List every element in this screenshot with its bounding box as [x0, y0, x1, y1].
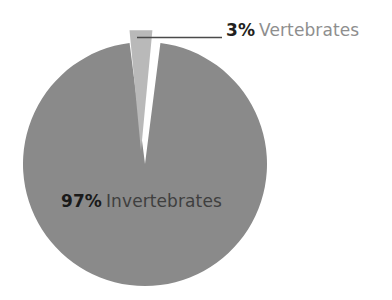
- vertebrates-percent: 3%: [226, 20, 255, 40]
- invertebrates-inline-label: 97%Invertebrates: [61, 193, 222, 210]
- pie-chart-graphic: [0, 0, 392, 300]
- vertebrates-name: Vertebrates: [259, 20, 359, 40]
- invertebrates-percent: 97%: [61, 191, 102, 211]
- vertebrates-callout-label: 3%Vertebrates: [226, 22, 359, 39]
- invertebrates-name: Invertebrates: [106, 191, 222, 211]
- pie-chart: 3%Vertebrates 97%Invertebrates: [0, 0, 392, 300]
